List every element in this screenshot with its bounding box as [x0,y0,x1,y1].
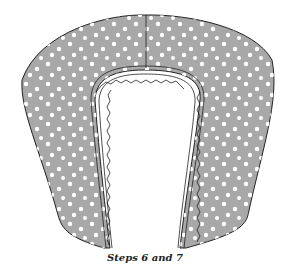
inner-edge-zigzag [91,66,204,248]
collar-facing-diagram [0,0,290,274]
figure-caption: Steps 6 and 7 [0,252,290,263]
